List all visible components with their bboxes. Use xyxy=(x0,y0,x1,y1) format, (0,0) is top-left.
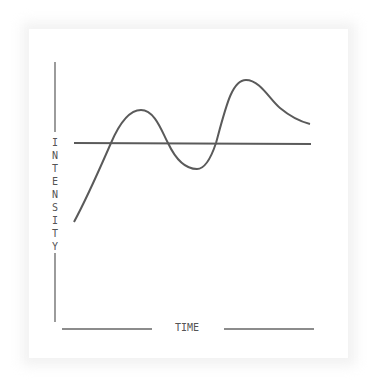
y-label-letter: T xyxy=(49,227,61,240)
y-axis-label: I N T E N S I T Y xyxy=(49,136,61,253)
y-label-letter: I xyxy=(49,136,61,149)
y-label-letter: N xyxy=(49,188,61,201)
y-label-letter: T xyxy=(49,162,61,175)
x-axis-label: TIME xyxy=(162,322,212,333)
y-label-letter: E xyxy=(49,175,61,188)
y-label-letter: I xyxy=(49,214,61,227)
y-label-letter: N xyxy=(49,149,61,162)
y-label-letter: Y xyxy=(49,240,61,253)
y-label-letter: S xyxy=(49,201,61,214)
intensity-curve xyxy=(74,80,310,222)
